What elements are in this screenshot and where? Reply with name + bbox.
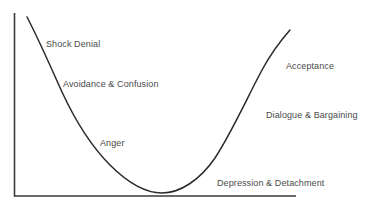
- stage-label-depression-detachment: Depression & Detachment: [217, 179, 324, 188]
- stage-label-acceptance: Acceptance: [286, 62, 334, 71]
- stage-label-anger: Anger: [100, 139, 125, 148]
- stage-label-shock-denial: Shock Denial: [46, 40, 100, 49]
- stage-label-avoidance-confusion: Avoidance & Confusion: [63, 80, 159, 89]
- change-curve-diagram: Shock Denial Avoidance & Confusion Anger…: [0, 0, 370, 209]
- stage-label-dialogue-bargaining: Dialogue & Bargaining: [266, 111, 358, 120]
